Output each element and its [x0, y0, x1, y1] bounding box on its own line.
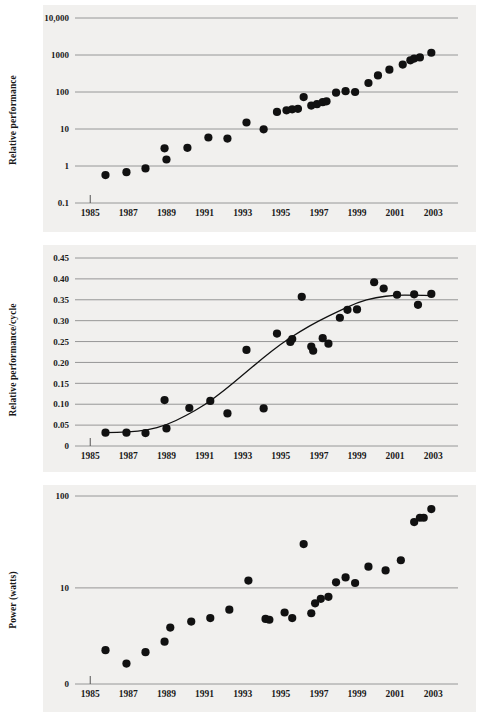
panel-background [43, 485, 476, 712]
scatter-plot-relative-performance: 10,00010001001010.1198519871989199119931… [27, 0, 479, 240]
data-point-marker [336, 314, 344, 322]
x-axis-tick-label: 1999 [348, 208, 367, 218]
data-point-marker [353, 305, 361, 313]
y-axis-title-power-watts: Power (watts) [0, 480, 26, 720]
y-axis-tick-label: 1 [65, 161, 70, 171]
data-point-marker [324, 340, 332, 348]
data-point-marker [324, 593, 332, 601]
data-point-marker [122, 660, 130, 668]
data-point-marker [399, 61, 407, 69]
x-axis-tick-label: 1985 [81, 689, 100, 699]
data-point-marker [162, 155, 170, 163]
x-axis-tick-label: 1997 [309, 208, 328, 218]
data-point-marker [351, 579, 359, 587]
y-axis-title-relative-performance: Relative performance [0, 0, 26, 240]
data-point-marker [410, 290, 418, 298]
x-axis-tick-label: 1999 [348, 451, 367, 461]
x-axis-tick-label: 1991 [195, 208, 214, 218]
x-axis-tick-label: 2001 [386, 451, 405, 461]
data-point-marker [265, 616, 273, 624]
scatter-plot-relative-performance-per-cycle: 0.450.400.350.300.250.200.150.100.050198… [27, 240, 479, 480]
y-axis-tick-label: 100 [56, 87, 70, 97]
x-axis-tick-label: 1993 [233, 451, 252, 461]
data-point-marker [322, 97, 330, 105]
data-point-marker [381, 566, 389, 574]
x-axis-tick-label: 2001 [386, 208, 405, 218]
data-point-marker [416, 53, 424, 61]
y-axis-tick-label: 0.20 [53, 358, 69, 368]
x-axis-tick-label: 1987 [119, 208, 138, 218]
chart-panel-relative-performance: Relative performance 10,00010001001010.1… [0, 0, 479, 240]
data-point-marker [273, 108, 281, 116]
plot-area-relative-performance: 10,00010001001010.1198519871989199119931… [27, 0, 479, 240]
y-axis-tick-label: 0.15 [53, 379, 69, 389]
y-axis-tick-label: 10,000 [44, 13, 69, 23]
data-point-marker [397, 556, 405, 564]
x-axis-tick-label: 1999 [348, 689, 367, 699]
x-axis-tick-label: 1991 [195, 451, 214, 461]
panel-background [43, 5, 476, 232]
data-point-marker [101, 646, 109, 654]
data-point-marker [427, 505, 435, 513]
data-point-marker [141, 164, 149, 172]
data-point-marker [260, 404, 268, 412]
data-point-marker [309, 347, 317, 355]
figure-three-panel-processor-trends: Relative performance 10,00010001001010.1… [0, 0, 479, 720]
data-point-marker [273, 330, 281, 338]
y-axis-tick-label: 1000 [51, 50, 70, 60]
data-point-marker [281, 608, 289, 616]
y-axis-tick-label: 0.40 [53, 274, 69, 284]
scatter-plot-power-watts: 1001001985198719891991199319951997199920… [27, 480, 479, 720]
data-point-marker [341, 87, 349, 95]
chart-panel-relative-performance-per-cycle: Relative performance/cycle 0.450.400.350… [0, 240, 479, 480]
data-point-marker [122, 429, 130, 437]
x-axis-tick-label: 2003 [424, 689, 443, 699]
data-point-marker [380, 284, 388, 292]
data-point-marker [242, 118, 250, 126]
y-axis-tick-label: 0.10 [53, 399, 69, 409]
data-point-marker [414, 301, 422, 309]
plot-area-power-watts: 1001001985198719891991199319951997199920… [27, 480, 479, 720]
chart-panel-power-watts: Power (watts) 10010019851987198919911993… [0, 480, 479, 720]
data-point-marker [288, 614, 296, 622]
data-point-marker [223, 135, 231, 143]
data-point-marker [166, 623, 174, 631]
data-point-marker [374, 71, 382, 79]
y-axis-tick-label: 0.45 [53, 253, 69, 263]
data-point-marker [242, 346, 250, 354]
x-axis-tick-label: 2003 [424, 208, 443, 218]
data-point-marker [288, 335, 296, 343]
x-axis-tick-label: 2003 [424, 451, 443, 461]
x-axis-tick-label: 1993 [233, 208, 252, 218]
data-point-marker [317, 595, 325, 603]
y-axis-tick-label: 100 [56, 491, 70, 501]
data-point-marker [244, 577, 252, 585]
x-axis-tick-label: 1985 [81, 451, 100, 461]
data-point-marker [160, 144, 168, 152]
data-point-marker [204, 133, 212, 141]
data-point-marker [307, 609, 315, 617]
y-axis-tick-label: 10 [60, 583, 70, 593]
data-point-marker [122, 168, 130, 176]
data-point-marker [160, 396, 168, 404]
x-axis-tick-label: 1995 [271, 208, 290, 218]
data-point-marker [385, 66, 393, 74]
data-point-marker [183, 144, 191, 152]
data-point-marker [141, 648, 149, 656]
x-axis-tick-label: 1997 [309, 451, 328, 461]
x-axis-tick-label: 1993 [233, 689, 252, 699]
x-axis-tick-label: 1995 [271, 451, 290, 461]
data-point-marker [300, 540, 308, 548]
data-point-marker [225, 606, 233, 614]
data-point-marker [206, 614, 214, 622]
data-point-marker [364, 79, 372, 87]
data-point-marker [420, 514, 428, 522]
data-point-marker [162, 424, 170, 432]
data-point-marker [160, 638, 168, 646]
data-point-marker [223, 409, 231, 417]
data-point-marker [300, 93, 308, 101]
x-axis-tick-label: 2001 [386, 689, 405, 699]
data-point-marker [206, 397, 214, 405]
y-axis-tick-label: 0 [65, 441, 70, 451]
data-point-marker [370, 278, 378, 286]
